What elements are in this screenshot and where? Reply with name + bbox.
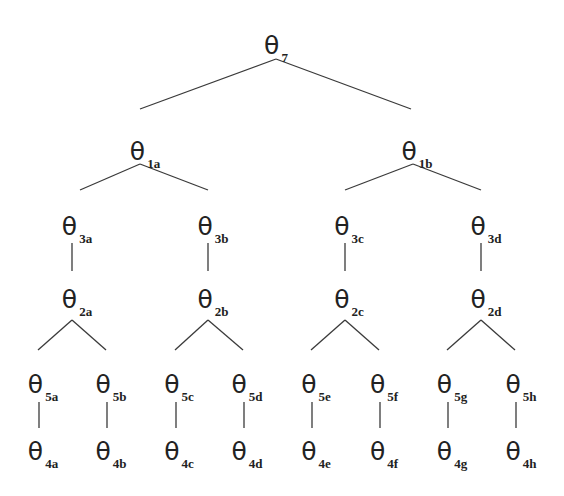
node-theta-5h: θ5h bbox=[505, 372, 536, 397]
theta-symbol: θ bbox=[301, 437, 316, 466]
tree-diagram: θ7θ1aθ1bθ3aθ3bθ3cθ3dθ2aθ2bθ2cθ2dθ5aθ5bθ5… bbox=[0, 0, 564, 496]
theta-symbol: θ bbox=[95, 370, 110, 399]
theta-symbol: θ bbox=[505, 437, 520, 466]
node-subscript: 4e bbox=[319, 456, 331, 471]
node-theta-5g: θ5g bbox=[437, 372, 467, 397]
node-theta-3c: θ3c bbox=[334, 214, 364, 239]
node-subscript: 1a bbox=[147, 156, 160, 171]
theta-symbol: θ bbox=[28, 437, 43, 466]
node-subscript: 4f bbox=[387, 456, 398, 471]
node-theta-4g: θ4g bbox=[437, 439, 467, 464]
theta-symbol: θ bbox=[470, 212, 485, 241]
node-subscript: 4g bbox=[454, 456, 467, 471]
theta-symbol: θ bbox=[197, 285, 212, 314]
node-theta-4h: θ4h bbox=[505, 439, 536, 464]
theta-symbol: θ bbox=[62, 212, 77, 241]
node-subscript: 4a bbox=[45, 456, 58, 471]
node-theta-5c: θ5c bbox=[164, 372, 194, 397]
edge-2a-5a bbox=[38, 320, 72, 350]
theta-symbol: θ bbox=[301, 370, 316, 399]
node-subscript: 4b bbox=[113, 456, 127, 471]
edge-1a-3a bbox=[80, 164, 140, 190]
node-subscript: 5h bbox=[523, 389, 537, 404]
theta-symbol: θ bbox=[28, 370, 43, 399]
edge-2d-5g bbox=[447, 320, 481, 350]
node-subscript: 3c bbox=[352, 231, 364, 246]
node-theta-4d: θ4d bbox=[231, 439, 262, 464]
edge-1b-3c bbox=[345, 164, 413, 190]
theta-symbol: θ bbox=[437, 370, 452, 399]
edge-7-1b bbox=[276, 59, 411, 109]
edge-2b-5d bbox=[208, 320, 243, 350]
node-theta-4f: θ4f bbox=[370, 439, 398, 464]
theta-symbol: θ bbox=[401, 137, 416, 166]
node-subscript: 3d bbox=[488, 231, 502, 246]
theta-symbol: θ bbox=[130, 137, 145, 166]
theta-symbol: θ bbox=[231, 437, 246, 466]
edge-2c-5f bbox=[345, 320, 379, 350]
node-theta-5e: θ5e bbox=[301, 372, 331, 397]
node-theta-5d: θ5d bbox=[231, 372, 262, 397]
node-theta-3b: θ3b bbox=[197, 214, 228, 239]
theta-symbol: θ bbox=[197, 212, 212, 241]
node-subscript: 5f bbox=[387, 389, 398, 404]
theta-symbol: θ bbox=[505, 370, 520, 399]
node-subscript: 4d bbox=[249, 456, 263, 471]
node-theta-5f: θ5f bbox=[370, 372, 398, 397]
node-theta-4a: θ4a bbox=[28, 439, 58, 464]
node-subscript: 4c bbox=[182, 456, 194, 471]
node-theta-2d: θ2d bbox=[470, 287, 501, 312]
theta-symbol: θ bbox=[164, 370, 179, 399]
node-theta-5b: θ5b bbox=[95, 372, 126, 397]
node-subscript: 2b bbox=[215, 304, 229, 319]
node-theta-4e: θ4e bbox=[301, 439, 331, 464]
node-theta-5a: θ5a bbox=[28, 372, 58, 397]
tree-edges bbox=[0, 0, 564, 496]
theta-symbol: θ bbox=[370, 370, 385, 399]
node-theta-2c: θ2c bbox=[334, 287, 364, 312]
theta-symbol: θ bbox=[231, 370, 246, 399]
node-subscript: 1b bbox=[419, 156, 433, 171]
node-subscript: 2a bbox=[79, 304, 92, 319]
node-subscript: 3a bbox=[79, 231, 92, 246]
edge-7-1a bbox=[140, 59, 276, 109]
node-theta-1a: θ1a bbox=[130, 139, 160, 164]
node-subscript: 2c bbox=[352, 304, 364, 319]
theta-symbol: θ bbox=[437, 437, 452, 466]
theta-symbol: θ bbox=[334, 285, 349, 314]
node-theta-7: θ7 bbox=[264, 33, 288, 58]
node-subscript: 5c bbox=[182, 389, 194, 404]
node-subscript: 5d bbox=[249, 389, 263, 404]
edge-2a-5b bbox=[72, 320, 106, 350]
edge-2b-5c bbox=[175, 320, 208, 350]
node-theta-4c: θ4c bbox=[164, 439, 194, 464]
node-subscript: 5b bbox=[113, 389, 127, 404]
node-subscript: 4h bbox=[523, 456, 537, 471]
theta-symbol: θ bbox=[62, 285, 77, 314]
edge-2d-5h bbox=[481, 320, 515, 350]
node-subscript: 3b bbox=[215, 231, 229, 246]
node-theta-2a: θ2a bbox=[62, 287, 92, 312]
theta-symbol: θ bbox=[470, 285, 485, 314]
node-subscript: 5g bbox=[454, 389, 467, 404]
theta-symbol: θ bbox=[370, 437, 385, 466]
node-theta-1b: θ1b bbox=[401, 139, 432, 164]
node-subscript: 5a bbox=[45, 389, 58, 404]
node-subscript: 2d bbox=[488, 304, 502, 319]
theta-symbol: θ bbox=[164, 437, 179, 466]
node-theta-3a: θ3a bbox=[62, 214, 92, 239]
theta-symbol: θ bbox=[264, 31, 279, 60]
node-subscript: 5e bbox=[319, 389, 331, 404]
node-theta-3d: θ3d bbox=[470, 214, 501, 239]
theta-symbol: θ bbox=[334, 212, 349, 241]
node-subscript: 7 bbox=[281, 50, 288, 65]
theta-symbol: θ bbox=[95, 437, 110, 466]
node-theta-4b: θ4b bbox=[95, 439, 126, 464]
edge-2c-5e bbox=[311, 320, 345, 350]
node-theta-2b: θ2b bbox=[197, 287, 228, 312]
